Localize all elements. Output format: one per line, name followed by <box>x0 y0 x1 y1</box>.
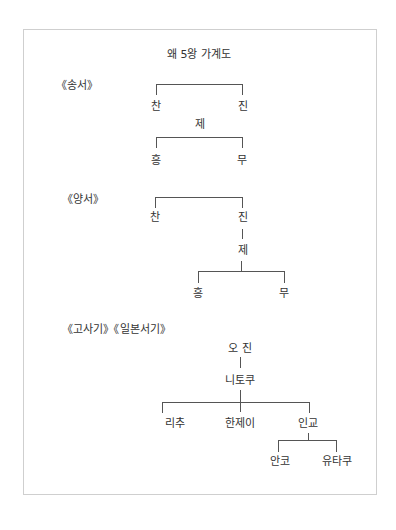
node-je: 제 <box>195 118 205 132</box>
node-heung: 흥 <box>193 287 203 301</box>
node-jin: 진 <box>238 211 248 225</box>
source-label-songseo: 《송서》 <box>56 79 98 93</box>
node-ingyo: 인교 <box>298 417 318 431</box>
diagram-title: 왜 5왕 가계도 <box>167 48 231 62</box>
node-je: 제 <box>238 244 248 258</box>
node-mu: 무 <box>279 287 289 301</box>
source-label-kojiki-nihonshoki: 《고사기》《일본서기》 <box>62 323 171 337</box>
node-richu: 리추 <box>165 417 185 431</box>
node-ojin: 오 진 <box>228 342 252 356</box>
node-jin: 진 <box>238 100 248 114</box>
node-anko: 안코 <box>270 455 290 469</box>
source-label-yangseo: 《양서》 <box>62 193 104 207</box>
diagram-frame <box>23 29 377 495</box>
node-heung: 흥 <box>151 154 161 168</box>
node-hanzei: 한제이 <box>225 417 255 431</box>
node-nintoku: 니토쿠 <box>225 374 255 388</box>
node-chan: 찬 <box>150 211 160 225</box>
node-chan: 찬 <box>151 100 161 114</box>
node-mu: 무 <box>237 154 247 168</box>
node-yutaku: 유타쿠 <box>322 455 352 469</box>
